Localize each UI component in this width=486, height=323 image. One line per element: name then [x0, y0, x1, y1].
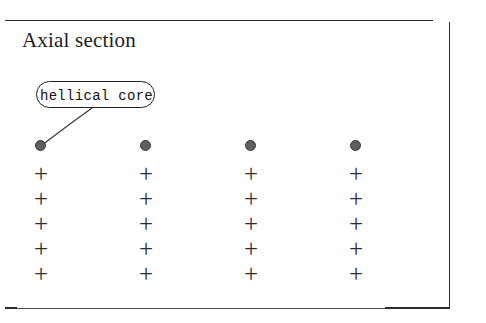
lattice-mark: + — [240, 263, 262, 285]
frame-bottom-rule-emphasis — [385, 307, 450, 309]
lattice-mark: + — [135, 213, 157, 235]
lattice-mark: + — [30, 163, 52, 185]
lattice-mark: + — [240, 213, 262, 235]
frame-top-rule — [5, 20, 433, 21]
callout-bubble-hellical-core: hellical core — [36, 81, 155, 108]
lattice-mark: + — [345, 213, 367, 235]
callout-label: hellical core — [37, 82, 156, 109]
lattice-mark: + — [30, 213, 52, 235]
frame-right-rule — [449, 22, 450, 309]
core-dot — [140, 140, 151, 151]
lattice-mark: + — [345, 163, 367, 185]
lattice-mark: + — [345, 188, 367, 210]
axial-section-figure: Axial section hellical core + + + + + + … — [0, 0, 486, 323]
lattice-mark: + — [135, 188, 157, 210]
core-dot — [35, 140, 46, 151]
figure-title: Axial section — [22, 27, 136, 53]
lattice-mark: + — [135, 163, 157, 185]
core-dot — [245, 140, 256, 151]
lattice-mark: + — [240, 238, 262, 260]
lattice-mark: + — [135, 238, 157, 260]
frame-bottom-rule — [7, 308, 450, 309]
lattice-mark: + — [345, 238, 367, 260]
lattice-mark: + — [345, 263, 367, 285]
core-dot — [350, 140, 361, 151]
lattice-mark: + — [30, 188, 52, 210]
lattice-mark: + — [30, 238, 52, 260]
frame-bottom-rule-stub — [5, 307, 17, 309]
lattice-mark: + — [135, 263, 157, 285]
lattice-mark: + — [240, 188, 262, 210]
lattice-mark: + — [30, 263, 52, 285]
lattice-mark: + — [240, 163, 262, 185]
